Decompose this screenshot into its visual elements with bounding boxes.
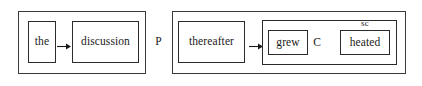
node-label-heated: heated: [340, 30, 390, 55]
node-label-thereafter: thereafter: [178, 21, 245, 63]
connective-label-c: C: [310, 37, 324, 49]
syntax-box-diagram: the discussion P thereafter grew C sc he…: [0, 0, 422, 86]
connective-label-p: P: [152, 36, 165, 48]
node-label-discussion: discussion: [72, 21, 139, 63]
node-label-the: the: [28, 21, 56, 63]
arrow-right-icon: [249, 37, 263, 46]
connective-label-sc: sc: [340, 19, 390, 28]
arrow-right-icon: [57, 37, 71, 46]
node-label-grew: grew: [268, 30, 308, 55]
